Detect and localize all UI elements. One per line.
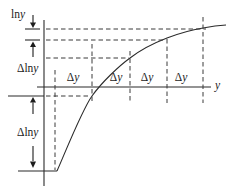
delta-y-label-3: Δy — [141, 71, 154, 84]
delta-ln-label-upper: Δlny — [17, 62, 39, 75]
diagram-canvas: lny Δlny Δlny Δy Δy Δy Δy y — [0, 0, 228, 192]
delta-y-label-2: Δy — [110, 71, 123, 84]
arrow-up-middle-head-icon — [30, 97, 36, 103]
arrow-down-top-head-icon — [30, 23, 36, 29]
horizontal-axis-label: y — [214, 79, 221, 92]
delta-y-label-1: Δy — [67, 71, 80, 84]
arrow-up-top — [30, 42, 36, 58]
arrow-down-top — [30, 15, 36, 28]
arrow-down-bottom — [30, 146, 36, 168]
delta-ln-label-lower: Δlny — [17, 126, 39, 139]
arrow-up-middle — [30, 97, 36, 114]
arrow-up-top-head-icon — [30, 42, 36, 48]
log-curve — [57, 25, 226, 171]
lny-vs-y-figure: lny Δlny Δlny Δy Δy Δy Δy y — [0, 0, 228, 192]
delta-y-label-4: Δy — [175, 71, 188, 84]
vertical-axis-label: lny — [11, 8, 26, 21]
arrow-down-bottom-head-icon — [30, 162, 36, 169]
